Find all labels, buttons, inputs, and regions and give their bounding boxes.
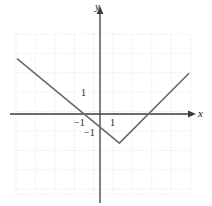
y-axis-label: y: [95, 1, 100, 12]
x-axis-label: x: [198, 108, 203, 119]
coordinate-plane-plot: [0, 0, 212, 206]
tick-label-y-1: 1: [81, 88, 86, 98]
tick-label-y-neg1: −1: [84, 128, 95, 138]
tick-label-x-1: 1: [110, 118, 115, 128]
graph-figure: x y 1 −1 1 −1: [0, 0, 212, 206]
v-shape-curve: [17, 59, 189, 143]
x-axis-arrowhead: [188, 111, 196, 118]
axes-lines: [10, 6, 196, 203]
